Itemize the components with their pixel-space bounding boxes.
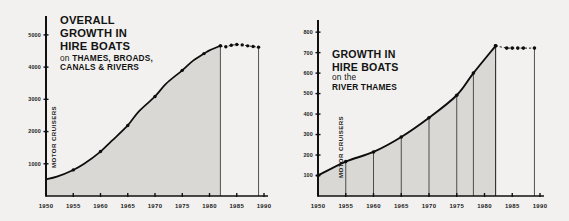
x-tick-label: 1985 (229, 203, 244, 209)
y-tick-label: 5000 (28, 32, 41, 38)
chart-right-area-fill (318, 46, 496, 196)
chart-right-x-ticks: 195019551960196519701975198019851990 (311, 193, 548, 209)
y-tick-label: 3000 (28, 96, 41, 102)
charts-sheet: 1000200030004000500019501955196019651970… (0, 0, 569, 221)
x-tick-label: 1960 (93, 203, 108, 209)
y-tick-label: 200 (303, 152, 313, 158)
x-tick-label: 1990 (533, 203, 548, 209)
y-tick-label: 800 (303, 29, 313, 35)
y-tick-label: 400 (303, 111, 313, 117)
chart-left-canvas: 1000200030004000500019501955196019651970… (0, 0, 284, 221)
y-tick-label: 2000 (28, 128, 41, 134)
chart-left-x-ticks: 195019551960196519701975198019851990 (39, 193, 272, 209)
x-tick-label: 1950 (311, 203, 326, 209)
x-tick-label: 1970 (422, 203, 437, 209)
x-tick-label: 1975 (175, 203, 190, 209)
x-tick-label: 1980 (202, 203, 217, 209)
y-tick-label: 700 (303, 50, 313, 56)
chart-overall-growth-hire-boats: 1000200030004000500019501955196019651970… (0, 0, 284, 221)
x-tick-label: 1970 (148, 203, 163, 209)
x-tick-label: 1975 (449, 203, 464, 209)
x-tick-label: 1955 (66, 203, 81, 209)
y-tick-label: 100 (303, 172, 313, 178)
x-tick-label: 1955 (338, 203, 353, 209)
y-tick-label: 300 (303, 131, 313, 137)
chart-left-area-fill (46, 46, 220, 196)
x-tick-label: 1950 (39, 203, 54, 209)
y-tick-label: 500 (303, 90, 313, 96)
chart-right-projection-line (496, 46, 535, 48)
x-tick-label: 1965 (394, 203, 409, 209)
x-tick-label: 1985 (505, 203, 520, 209)
x-tick-label: 1960 (366, 203, 381, 209)
y-tick-label: 1000 (28, 161, 41, 167)
y-tick-label: 4000 (28, 64, 41, 70)
x-tick-label: 1965 (120, 203, 135, 209)
y-tick-label: 600 (303, 70, 313, 76)
chart-right-canvas: 1002003004005006007008001950195519601965… (284, 0, 569, 221)
x-tick-label: 1990 (257, 203, 272, 209)
x-tick-label: 1980 (477, 203, 492, 209)
chart-growth-hire-boats-river-thames: 1002003004005006007008001950195519601965… (284, 0, 569, 221)
